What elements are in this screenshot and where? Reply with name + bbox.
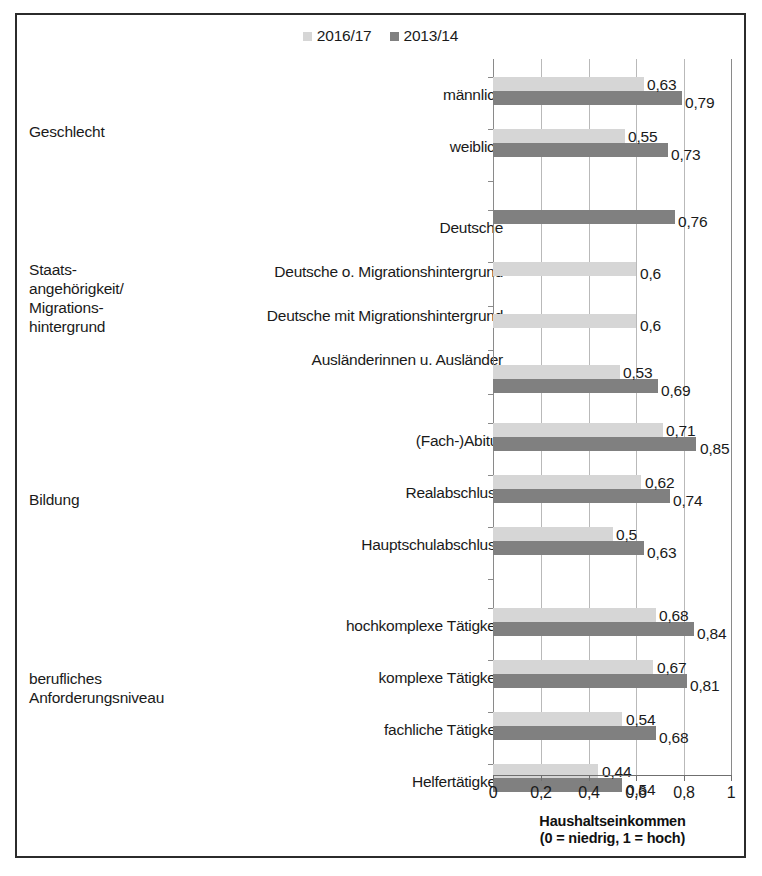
bar-2013-deutsche xyxy=(493,210,675,224)
bar-2016-hochkomplexe-taetigkeit xyxy=(493,608,656,622)
value-label-2016-fachliche-taetigkeit: 0,54 xyxy=(626,712,655,727)
value-label-2016-realabschluss: 0,62 xyxy=(645,475,674,490)
bottom-cropped-text xyxy=(0,866,762,876)
value-label-2016-fach-abitur: 0,71 xyxy=(666,423,695,438)
bar-2013-maennlich xyxy=(493,91,682,105)
x-tick-label-0-6: 0,6 xyxy=(625,784,646,802)
category-label-auslaenderinnen: Ausländerinnen u. Ausländer xyxy=(83,351,503,368)
x-tick-label-0-8: 0,8 xyxy=(673,784,694,802)
plot-area: 0,63 0,79 0,55 0,73 0,76 0,6 0,6 0,53 0,… xyxy=(493,59,732,775)
x-axis-line xyxy=(493,775,732,776)
value-label-2016-deutsche-mit-mh: 0,6 xyxy=(640,318,661,333)
category-label-komplexe-taetigkeit: komplexe Tätigkeit xyxy=(83,669,503,686)
category-label-maennlich: männlich xyxy=(83,86,503,103)
value-label-2013-hauptschulabschluss: 0,63 xyxy=(647,545,676,560)
bar-2016-auslaenderinnen xyxy=(493,365,620,379)
bar-2016-komplexe-taetigkeit xyxy=(493,660,653,674)
value-label-2013-komplexe-taetigkeit: 0,81 xyxy=(690,678,719,693)
x-tick-label-0: 0 xyxy=(489,784,498,802)
value-label-2013-fach-abitur: 0,85 xyxy=(700,441,729,456)
category-label-fachliche-taetigkeit: fachliche Tätigkeit xyxy=(83,721,503,738)
category-label-deutsche-mit-mh: Deutsche mit Migrationshintergrund xyxy=(83,307,503,324)
category-label-helfertaetigkeit: Helfertätigkeit xyxy=(83,773,503,790)
value-label-2013-auslaenderinnen: 0,69 xyxy=(661,383,690,398)
value-label-2016-maennlich: 0,63 xyxy=(647,77,676,92)
category-label-weiblich: weiblich xyxy=(83,138,503,155)
bar-2016-deutsche-ohne-mh xyxy=(493,262,636,276)
y-tick xyxy=(488,181,493,182)
x-tick-0-6 xyxy=(636,775,637,781)
value-label-2013-fachliche-taetigkeit: 0,68 xyxy=(659,730,688,745)
x-tick-label-1: 1 xyxy=(727,784,736,802)
bar-2013-fachliche-taetigkeit xyxy=(493,726,656,740)
x-tick-0 xyxy=(493,775,494,781)
bar-2016-deutsche-mit-mh xyxy=(493,314,636,328)
value-label-2016-hauptschulabschluss: 0,5 xyxy=(616,527,637,542)
x-axis-title-line2: (0 = niedrig, 1 = hoch) xyxy=(493,830,732,847)
bar-2016-fach-abitur xyxy=(493,423,663,437)
category-label-realabschluss: Realabschluss xyxy=(83,484,503,501)
figure-frame: 2016/17 2013/14 Geschlecht Staats-angehö… xyxy=(15,13,746,858)
value-label-2016-hochkomplexe-taetigkeit: 0,68 xyxy=(659,608,688,623)
value-label-2013-realabschluss: 0,74 xyxy=(673,493,702,508)
category-label-hauptschulabschluss: Hauptschulabschluss xyxy=(83,536,503,553)
bar-2013-helfertaetigkeit xyxy=(493,778,622,792)
value-label-2013-deutsche: 0,76 xyxy=(678,214,707,229)
bar-2016-realabschluss xyxy=(493,475,641,489)
y-tick xyxy=(488,306,493,307)
value-label-2016-auslaenderinnen: 0,53 xyxy=(623,365,652,380)
value-label-2013-maennlich: 0,79 xyxy=(685,95,714,110)
value-label-2013-weiblich: 0,73 xyxy=(671,147,700,162)
bar-2016-weiblich xyxy=(493,129,625,143)
bar-2013-komplexe-taetigkeit xyxy=(493,674,687,688)
category-label-hochkomplexe-taetigkeit: hochkomplexe Tätigkeit xyxy=(83,617,503,634)
bar-2013-realabschluss xyxy=(493,489,670,503)
x-tick-0-8 xyxy=(684,775,685,781)
category-label-deutsche-ohne-mh: Deutsche o. Migrationshintergrund xyxy=(83,263,503,280)
x-tick-label-0-2: 0,2 xyxy=(530,784,551,802)
category-label-fach-abitur: (Fach-)Abitur xyxy=(83,432,503,449)
bar-2016-hauptschulabschluss xyxy=(493,527,613,541)
y-tick xyxy=(488,579,493,580)
y-tick xyxy=(488,350,493,351)
value-label-2016-deutsche-ohne-mh: 0,6 xyxy=(640,266,661,281)
value-label-2016-komplexe-taetigkeit: 0,67 xyxy=(657,660,686,675)
value-label-2016-weiblich: 0,55 xyxy=(628,129,657,144)
x-tick-0-2 xyxy=(541,775,542,781)
value-label-2013-hochkomplexe-taetigkeit: 0,84 xyxy=(697,626,726,641)
category-label-deutsche: Deutsche xyxy=(83,219,503,236)
bar-2016-fachliche-taetigkeit xyxy=(493,712,622,726)
x-tick-label-0-4: 0,4 xyxy=(578,784,599,802)
bar-2013-weiblich xyxy=(493,143,668,157)
axis-line-right xyxy=(731,59,732,775)
bar-2013-auslaenderinnen xyxy=(493,379,658,393)
x-axis-title: Haushaltseinkommen (0 = niedrig, 1 = hoc… xyxy=(493,813,732,847)
y-tick xyxy=(488,394,493,395)
chart-area: Geschlecht Staats-angehörigkeit/Migratio… xyxy=(17,15,748,860)
value-label-2016-helfertaetigkeit: 0,44 xyxy=(602,764,631,779)
x-tick-0-4 xyxy=(589,775,590,781)
bar-2013-fach-abitur xyxy=(493,437,696,451)
bar-2013-hauptschulabschluss xyxy=(493,541,644,555)
x-tick-1 xyxy=(731,775,732,781)
bar-2013-hochkomplexe-taetigkeit xyxy=(493,622,694,636)
x-axis-title-line1: Haushaltseinkommen xyxy=(493,813,732,830)
bar-2016-maennlich xyxy=(493,77,644,91)
